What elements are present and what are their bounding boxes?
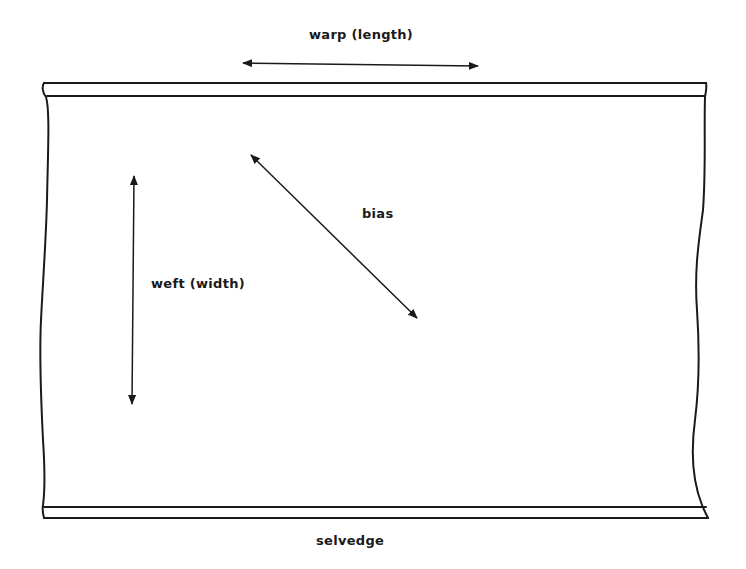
bias-arrow	[251, 155, 417, 318]
warp-label: warp (length)	[309, 27, 413, 42]
right-wavy-edge	[693, 83, 708, 518]
weft-arrow	[132, 176, 134, 404]
selvedge-label: selvedge	[316, 533, 384, 548]
left-wavy-edge	[40, 83, 48, 518]
bias-label: bias	[362, 206, 393, 221]
fabric-piece	[40, 83, 708, 518]
fabric-grain-diagram	[0, 0, 746, 569]
weft-label: weft (width)	[151, 276, 245, 291]
warp-arrow	[243, 63, 478, 66]
